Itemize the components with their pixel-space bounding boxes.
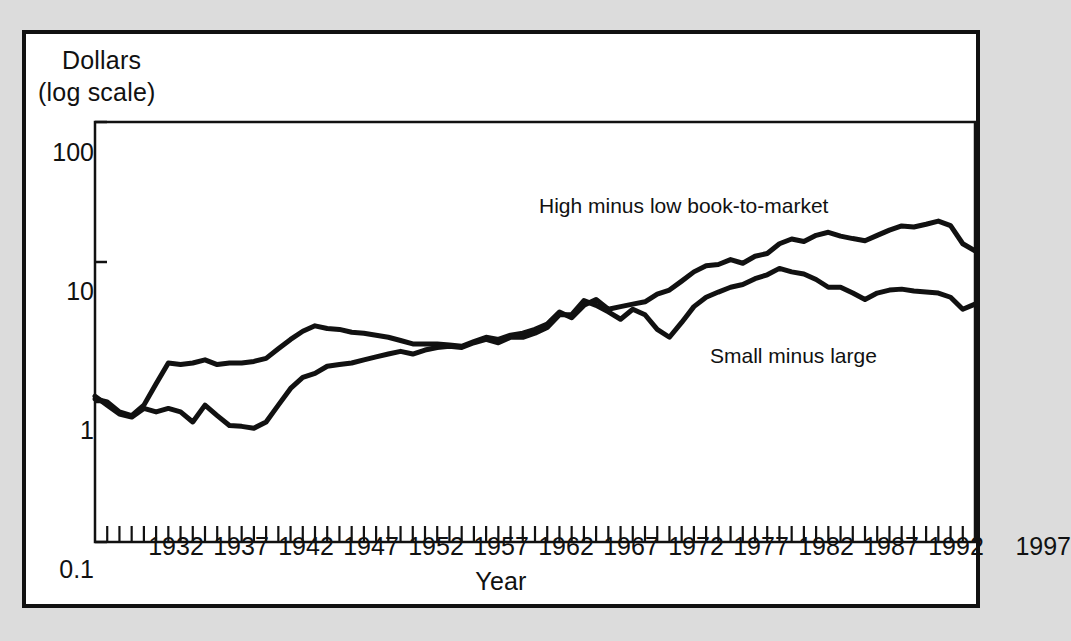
figure-panel: Dollars (log scale) 100 10 1 0.1 1932 19… xyxy=(22,30,980,608)
x-axis-ticks xyxy=(107,526,963,542)
y-axis-ticks xyxy=(95,122,107,542)
plot-svg xyxy=(26,34,976,604)
line-high-minus-low xyxy=(95,221,975,415)
line-small-minus-large xyxy=(95,268,975,428)
chart-plot-area: Dollars (log scale) 100 10 1 0.1 1932 19… xyxy=(26,34,976,604)
